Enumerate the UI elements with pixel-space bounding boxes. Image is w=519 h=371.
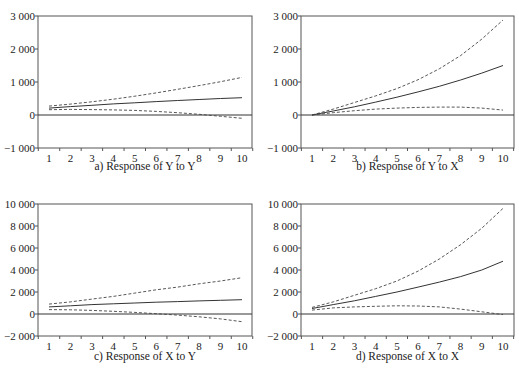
y-tick-label: 2 000	[10, 43, 35, 55]
x-tick-label: 10	[498, 340, 510, 352]
panel-c-response-x-to-y: −2 00002 0004 0006 0008 00010 0001234567…	[4, 198, 253, 363]
x-tick-label: 1	[309, 340, 315, 352]
x-tick-label: 8	[196, 340, 202, 352]
y-tick-label: 6 000	[10, 242, 35, 254]
x-tick-label: 1	[46, 152, 52, 164]
x-tick-label: 10	[237, 340, 249, 352]
y-tick-label: 8 000	[273, 220, 298, 232]
x-tick-label: 1	[309, 152, 315, 164]
x-tick-label: 9	[479, 152, 485, 164]
confidence-band-line	[49, 310, 242, 322]
y-tick-label: −1 000	[267, 142, 298, 154]
y-tick-label: 8 000	[10, 220, 35, 232]
x-tick-label: 2	[68, 340, 74, 352]
confidence-band-line	[312, 107, 503, 115]
panel-caption: b) Response of Y to X	[356, 160, 459, 173]
y-tick-label: 1 000	[10, 76, 35, 88]
y-tick-label: 0	[30, 308, 36, 320]
y-tick-label: 2 000	[273, 43, 298, 55]
y-tick-label: 10 000	[268, 198, 299, 210]
y-tick-label: 0	[293, 308, 299, 320]
x-tick-label: 2	[330, 152, 336, 164]
y-tick-label: 0	[30, 109, 36, 121]
plot-frame	[301, 16, 514, 148]
panel-caption: c) Response of X to Y	[94, 350, 197, 363]
y-tick-label: 1 000	[273, 76, 298, 88]
confidence-band-line	[49, 109, 242, 118]
impulse-response-line	[312, 261, 503, 308]
confidence-band-line	[312, 208, 503, 307]
y-tick-label: 3 000	[273, 10, 298, 22]
impulse-response-line	[49, 98, 242, 108]
x-tick-label: 9	[218, 340, 224, 352]
irf-chart-grid: −1 00001 0002 0003 00012345678910a) Resp…	[0, 0, 519, 371]
x-tick-label: 8	[196, 152, 202, 164]
x-tick-label: 2	[330, 340, 336, 352]
panel-a-response-y-to-y: −1 00001 0002 0003 00012345678910a) Resp…	[4, 10, 253, 173]
confidence-band-line	[312, 20, 503, 115]
y-tick-label: 4 000	[10, 264, 35, 276]
x-tick-label: 9	[218, 152, 224, 164]
y-tick-label: −2 000	[267, 330, 298, 342]
panel-caption: d) Response of X to X	[356, 350, 460, 363]
y-tick-label: −1 000	[4, 142, 35, 154]
y-tick-label: 6 000	[273, 242, 298, 254]
y-tick-label: 0	[293, 109, 299, 121]
y-tick-label: 2 000	[273, 286, 298, 298]
y-tick-label: 4 000	[273, 264, 298, 276]
y-tick-label: 3 000	[10, 10, 35, 22]
y-tick-label: −2 000	[4, 330, 35, 342]
x-tick-label: 9	[479, 340, 485, 352]
panel-b-response-y-to-x: −1 00001 0002 0003 00012345678910b) Resp…	[267, 10, 514, 173]
y-tick-label: 10 000	[5, 198, 36, 210]
panel-caption: a) Response of Y to Y	[94, 160, 196, 173]
plot-frame	[38, 204, 252, 336]
x-tick-label: 10	[237, 152, 249, 164]
x-tick-label: 1	[46, 340, 52, 352]
confidence-band-line	[312, 306, 503, 315]
impulse-response-line	[49, 300, 242, 307]
x-tick-label: 10	[498, 152, 510, 164]
panel-d-response-x-to-x: −2 00002 0004 0006 0008 00010 0001234567…	[267, 198, 514, 363]
x-tick-label: 8	[458, 152, 464, 164]
x-tick-label: 2	[68, 152, 74, 164]
y-tick-label: 2 000	[10, 286, 35, 298]
